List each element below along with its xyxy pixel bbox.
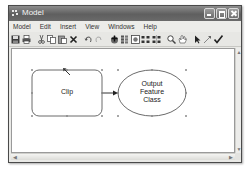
clip-node-label: Clip [32, 88, 102, 96]
pan-icon [178, 35, 187, 44]
menu-bar: Model Edit Insert View Windows Help [9, 21, 241, 32]
menu-insert[interactable]: Insert [60, 22, 76, 31]
add-data-button[interactable] [110, 35, 119, 44]
minimize-button[interactable] [204, 8, 215, 19]
scroll-down-icon[interactable]: ▼ [236, 146, 242, 152]
pan-button[interactable] [178, 35, 187, 44]
output-label-line-3: Class [118, 96, 186, 104]
scrollbar-corner [235, 153, 241, 160]
output-label-line-2: Feature [118, 88, 186, 96]
copy-button[interactable] [47, 35, 56, 44]
model-canvas[interactable]: Clip Output Feature Class [11, 48, 235, 153]
redo-button[interactable] [94, 35, 103, 44]
window-controls [204, 8, 239, 19]
paste-icon [58, 35, 67, 44]
paste-button[interactable] [58, 35, 67, 44]
copy-icon [47, 35, 56, 44]
delete-button[interactable] [69, 35, 78, 44]
maximize-button[interactable] [216, 8, 227, 19]
add-data-icon [110, 35, 119, 44]
select-pointer-button[interactable] [193, 35, 202, 44]
output-label-line-1: Output [118, 80, 186, 88]
model-window: Model Model Edit Insert View Windows Hel… [8, 5, 242, 163]
menu-view[interactable]: View [85, 22, 99, 31]
title-bar[interactable]: Model [9, 6, 241, 21]
auto-layout-button[interactable] [141, 35, 150, 44]
model-properties-icon [120, 35, 129, 44]
zoom-in-button[interactable] [167, 35, 176, 44]
validate-button[interactable] [214, 35, 223, 44]
menu-model[interactable]: Model [13, 22, 31, 31]
full-extent-button[interactable] [131, 35, 140, 44]
delete-icon [69, 35, 78, 44]
select-pointer-icon [193, 35, 202, 44]
menu-windows[interactable]: Windows [108, 22, 134, 31]
zoom-in-icon [167, 35, 176, 44]
modelbuilder-icon [12, 9, 20, 17]
output-node-label: Output Feature Class [118, 80, 186, 104]
full-extent-icon [131, 35, 140, 44]
scroll-up-icon[interactable]: ▲ [236, 49, 242, 55]
scroll-right-icon[interactable]: ▶ [228, 154, 234, 160]
validate-icon [214, 35, 223, 44]
horizontal-scrollbar[interactable]: ◀ ▶ [11, 153, 235, 160]
vertical-scrollbar[interactable]: ▲ ▼ [235, 48, 241, 153]
window-title: Model [22, 8, 44, 18]
cut-icon [37, 35, 46, 44]
select-all-icon [152, 35, 161, 44]
print-icon [22, 35, 31, 44]
connect-icon [203, 35, 212, 44]
auto-layout-icon [141, 35, 150, 44]
menu-edit[interactable]: Edit [40, 22, 51, 31]
undo-icon [84, 35, 93, 44]
print-button[interactable] [22, 35, 31, 44]
connect-button[interactable] [203, 35, 212, 44]
save-button[interactable] [11, 35, 20, 44]
close-button[interactable] [228, 8, 239, 19]
model-properties-button[interactable] [120, 35, 129, 44]
save-icon [11, 35, 20, 44]
cut-button[interactable] [37, 35, 46, 44]
undo-button[interactable] [84, 35, 93, 44]
scroll-left-icon[interactable]: ◀ [12, 154, 18, 160]
menu-help[interactable]: Help [144, 22, 157, 31]
redo-icon [94, 35, 103, 44]
select-all-button[interactable] [152, 35, 161, 44]
toolbar [9, 32, 241, 47]
